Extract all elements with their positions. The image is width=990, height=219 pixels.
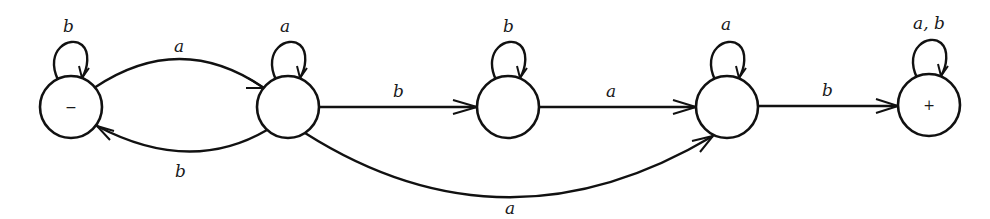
loop-s3-b: b	[492, 16, 527, 80]
edge-label: a, b	[913, 13, 945, 33]
loop-s5-ab: a, b	[913, 13, 948, 78]
loop-s2-a: a	[272, 16, 307, 80]
final-marker: +	[923, 97, 935, 113]
edge-label: b	[63, 16, 74, 36]
state-2	[257, 76, 319, 138]
edge-label: a	[174, 36, 184, 56]
state-4	[696, 76, 758, 138]
loop-s1-b: b	[54, 16, 89, 80]
edge-label: a	[280, 16, 290, 36]
edge-label: a	[606, 81, 616, 101]
edge-label: b	[175, 161, 186, 181]
state-start: −	[40, 76, 102, 138]
edge-label: a	[505, 198, 515, 218]
edge-s3-s4-a: a	[539, 81, 696, 114]
edge-label: a	[721, 14, 731, 34]
edge-s2-s1-b: b	[97, 126, 267, 181]
edge-s2-s3-b: b	[319, 81, 477, 114]
edge-s4-s5-b: b	[758, 80, 898, 113]
edge-label: b	[393, 81, 404, 101]
loop-s4-a: a	[711, 14, 746, 80]
edge-s1-s2-a: a	[94, 36, 264, 88]
edge-label: b	[503, 16, 514, 36]
state-final: +	[898, 74, 960, 136]
edge-label: b	[822, 80, 833, 100]
start-marker: −	[65, 99, 77, 115]
state-3	[477, 76, 539, 138]
finite-automaton-diagram: a b b a b a b a	[0, 0, 990, 219]
edge-s2-s4-a: a	[305, 133, 713, 218]
